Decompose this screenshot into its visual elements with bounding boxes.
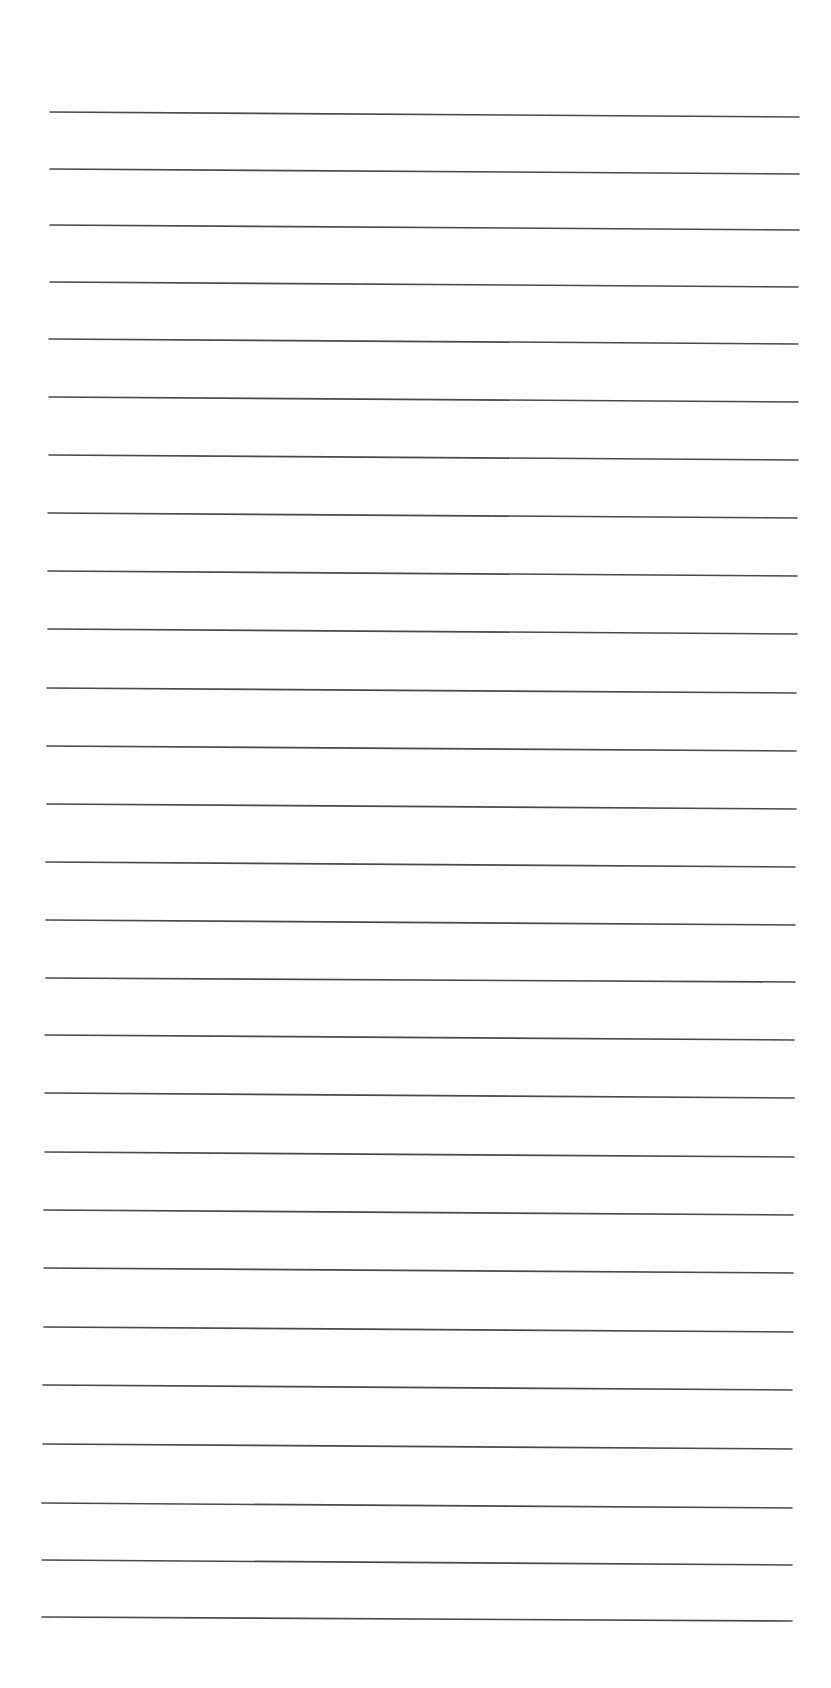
ruled-line: [46, 862, 795, 867]
ruled-line: [50, 225, 799, 230]
ruled-line: [48, 571, 797, 576]
ruled-line: [49, 339, 798, 344]
ruled-line: [42, 1617, 792, 1621]
ruled-line: [46, 978, 795, 982]
ruled-line: [46, 920, 795, 925]
ruled-line: [50, 282, 798, 287]
ruled-line: [48, 629, 797, 634]
ruled-line: [50, 112, 799, 117]
ruled-line: [44, 1268, 793, 1273]
ruled-line: [43, 1385, 792, 1390]
ruled-line: [45, 1152, 794, 1157]
ruled-line: [45, 1093, 794, 1098]
ruled-line: [44, 1327, 793, 1332]
ruled-line: [43, 1444, 792, 1449]
ruled-line: [47, 688, 796, 693]
ruled-line: [42, 1560, 792, 1565]
ruled-line: [49, 455, 798, 460]
ruled-line: [50, 169, 799, 174]
ruled-line: [49, 397, 798, 402]
ruled-line: [45, 1035, 794, 1040]
ruled-line: [47, 746, 796, 751]
ruled-line: [47, 804, 796, 809]
ruled-line: [44, 1210, 793, 1215]
ruled-lines-group: [42, 112, 799, 1621]
lined-paper-sheet: [0, 0, 831, 1688]
ruled-line: [42, 1503, 792, 1508]
ruled-line: [48, 513, 797, 518]
